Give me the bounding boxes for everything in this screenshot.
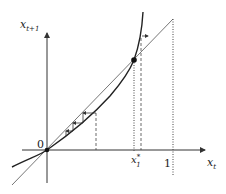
one-label: 1 bbox=[164, 157, 171, 170]
origin-label: 0 bbox=[37, 138, 44, 151]
x-axis-label: xt bbox=[207, 156, 216, 171]
y-axis-label: xt+1 bbox=[20, 18, 39, 33]
fixed-point-label: x*1 bbox=[131, 153, 141, 169]
map-curve bbox=[12, 12, 143, 167]
origin-point bbox=[45, 148, 50, 153]
cobweb-diagram: xt+1 xt 0 x*1 1 bbox=[0, 0, 226, 194]
diagonal-line bbox=[12, 19, 173, 185]
fixed-point bbox=[131, 57, 137, 63]
